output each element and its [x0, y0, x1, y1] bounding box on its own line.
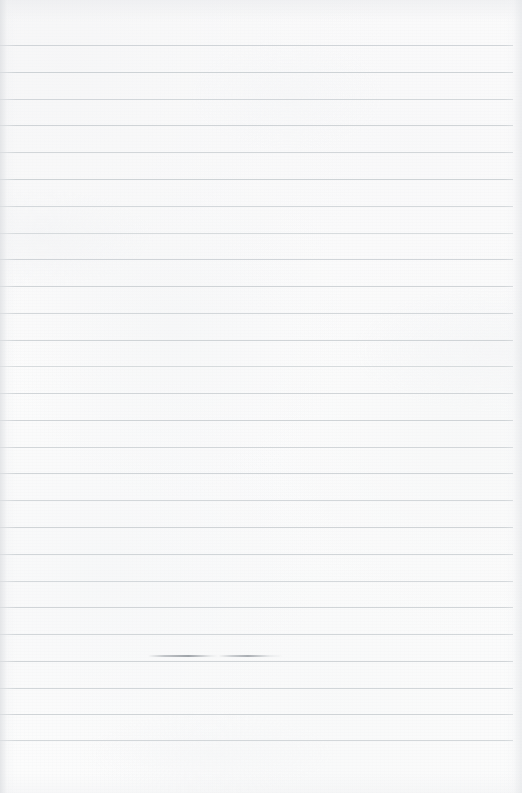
pen-smudge-artifact — [148, 655, 283, 657]
ruled-line-layer — [0, 0, 522, 793]
ruled-line — [0, 740, 513, 741]
ruled-line — [0, 313, 513, 314]
ruled-line — [0, 447, 513, 448]
ruled-line — [0, 420, 513, 421]
ruled-line — [0, 634, 513, 635]
scan-vignette-right — [504, 0, 522, 793]
ruled-line — [0, 527, 513, 528]
ruled-line — [0, 581, 513, 582]
ruled-line — [0, 714, 513, 715]
scanned-page — [0, 0, 522, 793]
ruled-line — [0, 125, 513, 126]
ruled-line — [0, 340, 513, 341]
scan-vignette-top — [0, 0, 522, 22]
ruled-line — [0, 661, 513, 662]
ruled-line — [0, 554, 513, 555]
ruled-line — [0, 99, 513, 100]
ruled-line — [0, 72, 513, 73]
ruled-line — [0, 179, 513, 180]
ruled-line — [0, 152, 513, 153]
ruled-line — [0, 366, 513, 367]
ruled-line — [0, 259, 513, 260]
ruled-line — [0, 607, 513, 608]
ruled-line — [0, 688, 513, 689]
scan-vignette-left — [0, 0, 16, 793]
ruled-line — [0, 233, 513, 234]
ruled-line — [0, 393, 513, 394]
ruled-line — [0, 473, 513, 474]
ruled-line — [0, 286, 513, 287]
scan-vignette-bottom — [0, 773, 522, 793]
ruled-line — [0, 500, 513, 501]
ruled-line — [0, 206, 513, 207]
ruled-line — [0, 45, 513, 46]
